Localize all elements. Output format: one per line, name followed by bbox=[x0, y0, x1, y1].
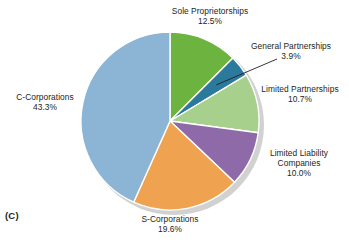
slice-label-limited-liability-companies: Limited Liability Companies 10.0% bbox=[252, 148, 346, 179]
slice-label-s-corporations: S-Corporations 19.6% bbox=[112, 214, 228, 234]
pie-chart-figure: Sole Proprietorships 12.5%General Partne… bbox=[0, 0, 349, 245]
slice-label-name: Limited Partnerships bbox=[252, 84, 348, 94]
slice-label-value: 10.0% bbox=[252, 168, 346, 178]
pie-chart-canvas: Sole Proprietorships 12.5%General Partne… bbox=[0, 0, 349, 245]
pie-slices: Sole Proprietorships 12.5%General Partne… bbox=[81, 32, 259, 210]
slice-label-value: 43.3% bbox=[2, 102, 88, 112]
slice-label-sole-proprietorships: Sole Proprietorships 12.5% bbox=[148, 6, 272, 26]
slice-label-limited-partnerships: Limited Partnerships 10.7% bbox=[252, 84, 348, 104]
slice-label-name-line2: Companies bbox=[252, 158, 346, 168]
slice-label-value: 10.7% bbox=[252, 94, 348, 104]
slice-label-name: Sole Proprietorships bbox=[148, 6, 272, 16]
figure-panel-marker: (C) bbox=[5, 210, 19, 221]
slice-label-value: 12.5% bbox=[148, 16, 272, 26]
slice-label-name-line1: Limited Liability bbox=[252, 148, 346, 158]
slice-label-name: C-Corporations bbox=[2, 92, 88, 102]
slice-label-c-corporations: C-Corporations 43.3% bbox=[2, 92, 88, 112]
slice-label-value: 19.6% bbox=[112, 224, 228, 234]
slice-label-general-partnerships: General Partnerships 3.9% bbox=[235, 41, 347, 61]
slice-label-value: 3.9% bbox=[235, 51, 347, 61]
slice-label-name: General Partnerships bbox=[235, 41, 347, 51]
slice-label-name: S-Corporations bbox=[112, 214, 228, 224]
